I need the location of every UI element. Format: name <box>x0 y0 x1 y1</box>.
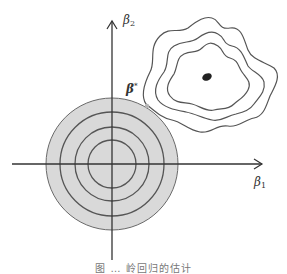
ridge-estimate-label-text: β <box>126 82 134 96</box>
ridge-estimate-label: β* <box>126 82 138 95</box>
figure-caption: 图 … 岭回归的估计 <box>0 264 287 274</box>
tangent-point <box>145 104 149 108</box>
x-axis-label: β1 <box>254 176 266 190</box>
ols-estimate-dot <box>201 72 213 83</box>
ridge-estimate-label-superscript: * <box>134 81 138 90</box>
y-axis-label-subscript: 2 <box>130 19 135 28</box>
y-axis-label-text: β <box>123 13 130 27</box>
x-axis-label-text: β <box>254 175 261 189</box>
loss-contours <box>143 17 277 132</box>
x-axis-label-subscript: 1 <box>261 181 266 190</box>
y-axis-label: β2 <box>123 14 135 28</box>
